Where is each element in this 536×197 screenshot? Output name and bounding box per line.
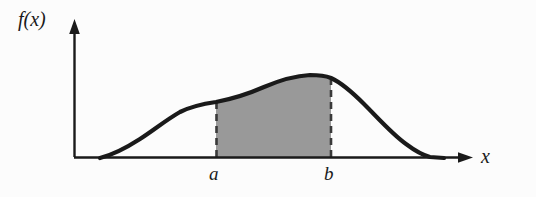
- y-axis-label: f(x): [18, 9, 46, 29]
- lower-limit-label-a: a: [209, 164, 219, 183]
- y-axis-arrowhead-icon: [69, 19, 80, 34]
- shaded-area-under-curve: [105, 75, 440, 157]
- figure-container: f(x) x a b: [0, 0, 536, 197]
- shaded-area-group: [105, 75, 440, 157]
- upper-limit-label-b: b: [324, 164, 334, 183]
- x-axis-arrowhead-icon: [458, 152, 473, 163]
- x-axis-label: x: [481, 146, 490, 166]
- area-under-curve-diagram: [0, 0, 536, 197]
